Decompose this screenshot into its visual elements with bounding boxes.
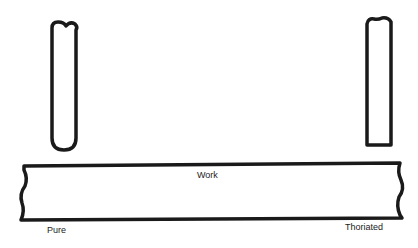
thoriated-label: Thoriated <box>345 222 383 232</box>
pure-electrode <box>52 22 77 150</box>
thoriated-electrode <box>367 18 391 145</box>
pure-label: Pure <box>47 225 66 235</box>
work-label: Work <box>197 170 218 180</box>
electrode-diagram <box>0 0 418 248</box>
